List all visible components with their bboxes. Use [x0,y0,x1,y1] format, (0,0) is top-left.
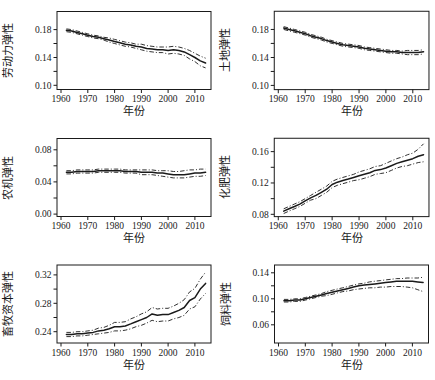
series-upper-confidence-band [66,29,205,58]
figure-grid: 0.100.140.18196019701980199020002010劳动力弹… [0,0,435,380]
x-tick-label: 2010 [403,220,422,231]
y-axis-title: 畜牧资本弹性 [1,271,14,337]
x-tick-label: 1980 [323,348,342,358]
x-tick-label: 1970 [78,221,97,231]
x-tick-label: 1970 [296,93,315,104]
plot-border [275,265,429,343]
chart-machinery-elasticity: 0.000.040.08196019701980199020002010农机弹性… [0,127,217,254]
x-tick-label: 2000 [376,220,395,231]
plot-border [57,139,211,217]
chart-feed-elasticity: 0.060.100.14196019701980199020002010饲料弹性… [217,254,435,380]
y-axis-title: 化肥弹性 [218,155,231,199]
x-axis-title: 年份 [341,231,363,244]
x-tick-label: 1980 [323,93,342,104]
x-tick-label: 1980 [105,348,124,358]
x-tick-label: 1960 [269,220,288,231]
y-tick-label: 0.16 [252,146,269,157]
x-tick-label: 1970 [78,94,97,104]
x-tick-label: 2000 [376,348,395,358]
y-tick-label: 0.08 [35,145,52,155]
livestock-capital-elasticity-plot: 0.240.280.32196019701980199020002010畜牧资本… [0,254,217,380]
x-tick-label: 1990 [132,348,151,358]
y-tick-label: 0.28 [35,299,52,309]
series-upper-confidence-band [66,272,205,332]
x-tick-label: 1980 [105,94,124,104]
x-tick-label: 1970 [296,220,315,231]
x-tick-label: 2010 [185,94,204,104]
x-tick-label: 1990 [349,348,368,358]
x-tick-label: 2010 [185,348,204,358]
x-tick-label: 1960 [269,348,288,358]
series-estimate [284,155,424,211]
y-tick-label: 0.18 [35,25,52,35]
x-axis-title: 年份 [341,358,363,371]
y-tick-label: 0.06 [252,320,269,330]
x-tick-label: 1960 [269,93,288,104]
y-tick-label: 0.14 [252,268,269,278]
x-tick-label: 1990 [350,220,369,231]
x-tick-label: 1960 [52,221,71,231]
x-tick-label: 1990 [132,94,151,104]
x-tick-label: 2010 [403,93,422,104]
x-tick-label: 2000 [159,221,178,231]
chart-labor-elasticity: 0.100.140.18196019701980199020002010劳动力弹… [0,0,217,127]
series-estimate [66,30,205,63]
fertilizer-elasticity-plot: 0.080.120.16196019701980199020002010化肥弹性… [217,127,435,254]
x-tick-label: 1990 [132,221,151,231]
x-tick-label: 1960 [52,94,71,104]
x-axis-title: 年份 [123,231,145,244]
x-axis-title: 年份 [341,104,363,117]
y-tick-label: 0.12 [252,177,269,188]
y-tick-label: 0.10 [252,80,269,91]
plot-border [57,12,211,90]
x-tick-label: 1970 [296,348,315,358]
y-axis-title: 土地弹性 [218,28,231,72]
x-tick-label: 1970 [78,348,97,358]
land-elasticity-plot: 0.100.140.18196019701980199020002010土地弹性… [217,0,435,127]
y-tick-label: 0.10 [252,294,269,304]
series-lower-confidence-band [66,293,205,336]
chart-fertilizer-elasticity: 0.080.120.16196019701980199020002010化肥弹性… [217,127,435,254]
y-axis-title: 农机弹性 [1,156,14,200]
series-lower-confidence-band [66,32,205,68]
machinery-elasticity-plot: 0.000.040.08196019701980199020002010农机弹性… [0,127,217,254]
y-tick-label: 0.04 [35,177,52,187]
y-tick-label: 0.14 [35,53,52,63]
y-tick-label: 0.10 [35,81,52,91]
chart-livestock-capital-elasticity: 0.240.280.32196019701980199020002010畜牧资本… [0,254,217,380]
feed-elasticity-plot: 0.060.100.14196019701980199020002010饲料弹性… [217,254,435,380]
x-tick-label: 2010 [403,348,422,358]
x-tick-label: 2010 [185,221,204,231]
x-tick-label: 2000 [376,93,395,104]
x-tick-label: 1960 [52,348,71,358]
series-upper-confidence-band [284,27,424,52]
x-tick-label: 2000 [159,94,178,104]
x-tick-label: 2000 [159,348,178,358]
y-tick-label: 0.14 [252,52,269,63]
x-tick-label: 1980 [323,220,342,231]
chart-land-elasticity: 0.100.140.18196019701980199020002010土地弹性… [217,0,435,127]
y-axis-title: 劳动力弹性 [1,23,14,78]
x-axis-title: 年份 [123,358,145,371]
y-axis-title: 饲料弹性 [219,282,232,326]
x-tick-label: 1980 [105,221,124,231]
series-lower-confidence-band [284,162,424,214]
y-tick-label: 0.24 [35,327,52,337]
y-tick-label: 0.18 [252,24,269,35]
series-upper-confidence-band [284,144,424,209]
labor-elasticity-plot: 0.100.140.18196019701980199020002010劳动力弹… [0,0,217,127]
y-tick-label: 0.32 [35,270,52,280]
y-tick-label: 0.08 [252,209,269,220]
x-tick-label: 1990 [350,93,369,104]
x-axis-title: 年份 [123,104,145,117]
y-tick-label: 0.00 [35,209,52,219]
